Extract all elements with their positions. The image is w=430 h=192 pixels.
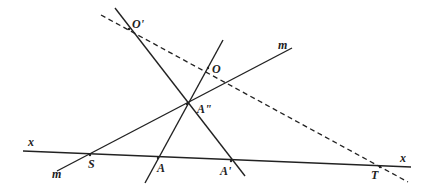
point-label-o: O <box>212 62 221 76</box>
geometry-diagram: xxmmO'OA"SAA'T <box>0 0 430 192</box>
line-label-m: m <box>278 38 287 52</box>
lines-layer <box>23 8 411 183</box>
point-label-s: S <box>88 157 95 171</box>
point-label-o-prime: O' <box>132 17 145 31</box>
point-label-a-prime: A' <box>219 164 232 178</box>
line-label-x: x <box>27 135 34 149</box>
line-oprimeot <box>101 15 408 182</box>
line-label-m: m <box>52 167 61 181</box>
point-label-t: T <box>371 168 379 182</box>
point-a-prime <box>230 160 232 162</box>
point-a-double-prime <box>186 103 188 105</box>
line-m <box>57 48 292 171</box>
point-s <box>89 154 91 156</box>
point-label-a-double-prime: A" <box>196 102 212 116</box>
line-label-x: x <box>399 151 406 165</box>
point-t <box>379 166 381 168</box>
point-o-prime <box>128 28 130 30</box>
point-o <box>207 67 209 69</box>
point-a <box>157 157 159 159</box>
point-label-a: A <box>156 161 165 175</box>
